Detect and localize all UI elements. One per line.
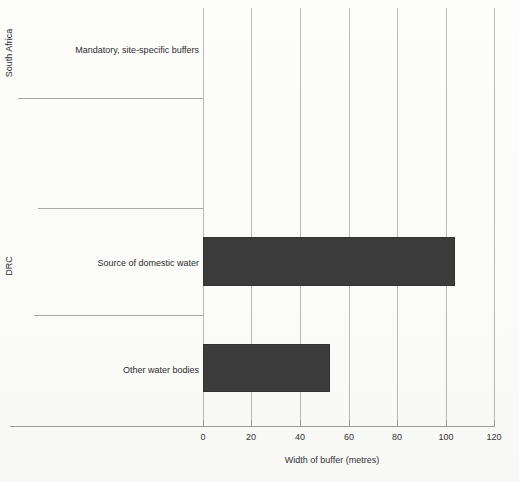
x-tick-0 (203, 420, 204, 427)
x-tick-40 (300, 420, 301, 427)
x-axis-title: Width of buffer (metres) (285, 455, 379, 465)
x-axis-line (10, 426, 495, 427)
group-label-south-africa: South Africa (4, 21, 14, 85)
x-tick-label-120: 120 (486, 432, 501, 442)
gridline-80 (397, 8, 398, 426)
category-separator-1 (18, 98, 203, 99)
x-tick-60 (349, 420, 350, 427)
x-tick-label-20: 20 (246, 432, 256, 442)
x-tick-label-100: 100 (438, 432, 453, 442)
category-label-domestic-water: Source of domestic water (0, 258, 199, 268)
x-tick-100 (446, 420, 447, 427)
x-axis-title-wrapper: Width of buffer (metres) (0, 455, 519, 465)
x-tick-label-40: 40 (295, 432, 305, 442)
x-tick-label-80: 80 (392, 432, 402, 442)
x-tick-120 (494, 420, 495, 427)
gridline-60 (349, 8, 350, 426)
group-label-drc: DRC (4, 243, 14, 289)
category-label-other-water-bodies: Other water bodies (0, 365, 199, 375)
category-label-mandatory: Mandatory, site-specific buffers (0, 45, 199, 55)
bar-source-of-domestic-water (203, 237, 455, 286)
category-separator-3 (34, 315, 203, 316)
x-tick-80 (397, 420, 398, 427)
x-tick-label-60: 60 (344, 432, 354, 442)
x-tick-label-0: 0 (200, 432, 205, 442)
gridline-120 (494, 8, 495, 426)
category-separator-2 (38, 208, 203, 209)
bar-other-water-bodies (203, 344, 330, 392)
x-tick-20 (251, 420, 252, 427)
bar-chart: Mandatory, site-specific buffers Source … (0, 0, 519, 482)
gridline-100 (446, 8, 447, 426)
